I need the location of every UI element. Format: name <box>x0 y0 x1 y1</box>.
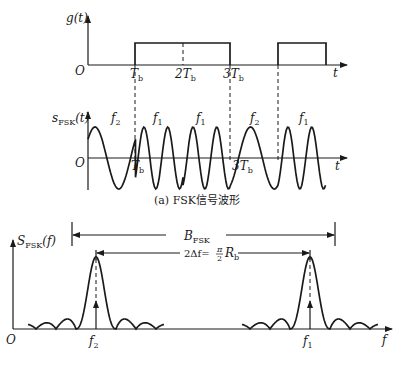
f2-label: f2 <box>88 334 99 350</box>
segment-label-3: f1 <box>195 111 206 127</box>
segment-label-2: f1 <box>152 111 163 127</box>
segment-label-1: f2 <box>110 111 121 127</box>
tick-3tb: 3Tb <box>223 67 244 83</box>
g-xlabel: t <box>333 66 338 80</box>
baseband-panel: g(t) O t Tb 2Tb 3Tb <box>66 11 347 83</box>
s-ylabel: sFSK(t) <box>52 111 90 127</box>
spectrum-ylabel: SFSK(f) <box>17 234 56 250</box>
segment-label-5: f1 <box>298 111 309 127</box>
wave-tick-3tb: 3Tb <box>232 159 253 175</box>
spectrum-origin: O <box>6 333 16 347</box>
delta-rb: Rb <box>224 246 239 262</box>
s-xlabel: t <box>335 159 340 173</box>
waveform-caption: (a) FSK信号波形 <box>154 194 240 207</box>
tick-tb: Tb <box>130 67 143 83</box>
segment-label-4: f2 <box>249 111 260 127</box>
fsk-figure: g(t) O t Tb 2Tb 3Tb sFSK(t) O t f2 f1 f1… <box>0 0 406 366</box>
s-origin: O <box>75 156 85 170</box>
g-origin: O <box>75 64 85 78</box>
g-pulses <box>135 43 326 65</box>
delta-frac-num: π <box>216 245 223 254</box>
waveform-panel: sFSK(t) O t f2 f1 f1 f2 f1 Tb 3Tb (a) FS… <box>52 111 347 207</box>
spectrum-curve <box>28 257 378 329</box>
spectrum-xlabel: f <box>381 333 389 347</box>
g-ylabel: g(t) <box>66 11 88 25</box>
spectrum-panel: BFSK 2Δf= π 2 Rb SFSK(f) O f f2 f1 <box>6 222 392 350</box>
wave-tick-tb: Tb <box>131 159 144 175</box>
tick-2tb: 2Tb <box>174 67 196 83</box>
delta-frac-den: 2 <box>217 254 222 263</box>
f1-label: f1 <box>302 334 313 350</box>
bfsk-label: BFSK <box>183 229 211 245</box>
delta-f-label: 2Δf= <box>184 248 210 259</box>
